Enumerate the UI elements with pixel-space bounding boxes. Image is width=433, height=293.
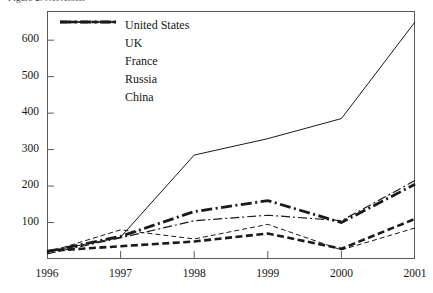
legend-label: UK (125, 36, 142, 51)
legend-label: Russia (125, 72, 157, 87)
thick-dashed-key (60, 37, 116, 49)
chart-legend: United StatesUKFranceRussiaChina (60, 16, 189, 106)
y-axis-ticks (47, 40, 54, 222)
x-tick-label: 1997 (98, 267, 144, 279)
y-tick-label: 600 (7, 32, 39, 44)
thin-solid-key (60, 55, 116, 67)
x-tick-label: 1996 (24, 267, 70, 279)
thin-dashdot-key (60, 73, 116, 85)
x-tick-label: 1998 (171, 267, 217, 279)
x-tick-label: 2000 (318, 267, 364, 279)
legend-item-france[interactable]: France (60, 52, 189, 70)
y-tick-label: 400 (7, 105, 39, 117)
series-line-uk (47, 219, 415, 251)
legend-item-china[interactable]: China (60, 88, 189, 106)
x-tick-label: 2001 (392, 267, 433, 279)
thick-dashdot-key (60, 91, 116, 103)
legend-label: United States (125, 18, 189, 33)
chart-figure: Figure 2: Net Assets 100200300400500600 … (0, 0, 433, 293)
legend-item-russia[interactable]: Russia (60, 70, 189, 88)
legend-label: China (125, 90, 154, 105)
y-tick-label: 100 (7, 215, 39, 227)
x-axis-ticks (121, 251, 342, 259)
y-tick-label: 500 (7, 69, 39, 81)
legend-label: France (125, 54, 158, 69)
legend-item-uk[interactable]: UK (60, 34, 189, 52)
series-line-russia (47, 181, 415, 254)
y-tick-label: 200 (7, 178, 39, 190)
x-tick-label: 1999 (245, 267, 291, 279)
y-tick-label: 300 (7, 142, 39, 154)
